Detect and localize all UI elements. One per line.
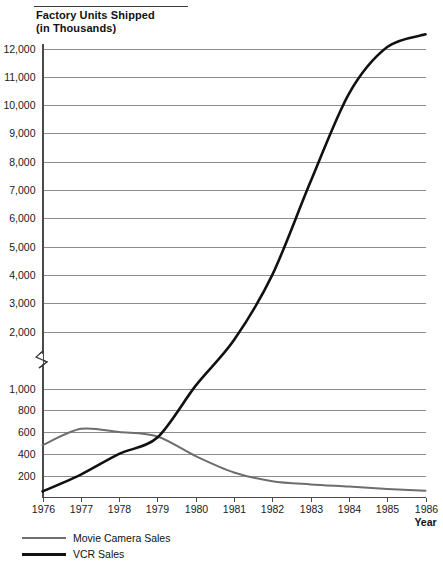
- y-axis-tick-label: 7,000: [9, 184, 35, 196]
- gridline-group: [43, 50, 426, 477]
- y-axis-tick-label: 200: [18, 470, 36, 482]
- y-axis-tick-label: 4,000: [9, 269, 35, 281]
- x-axis-tick-label: 1984: [338, 503, 362, 515]
- y-axis-tick-label: 3,000: [9, 297, 35, 309]
- legend-label-movie-camera-sales: Movie Camera Sales: [73, 530, 170, 546]
- series-line-vcr-sales: [43, 34, 426, 491]
- y-axis-tick-label: 11,000: [4, 71, 35, 83]
- y-axis-tick-label: 800: [18, 404, 36, 416]
- legend-swatch-vcr-sales: [22, 553, 66, 556]
- x-axis-tick-label: 1978: [108, 503, 132, 515]
- legend-label-vcr-sales: VCR Sales: [73, 546, 124, 562]
- legend-item-vcr-sales: VCR Sales: [22, 546, 322, 562]
- x-axis-tick-label: 1985: [376, 503, 400, 515]
- line-chart-plot: 12,00011,00010,0009,0008,0007,0006,0005,…: [0, 0, 443, 576]
- y-axis-tick-label: 12,000: [3, 43, 35, 55]
- x-axis-tick-label: 1982: [261, 503, 285, 515]
- legend-swatch-movie-camera-sales: [22, 537, 66, 539]
- y-axis-tick-label: 1,000: [9, 383, 35, 395]
- y-axis-tick-label: 5,000: [9, 241, 35, 253]
- y-axis-tick-label: 400: [18, 448, 36, 460]
- chart-container: Factory Units Shipped (in Thousands) 12,…: [0, 0, 443, 576]
- x-axis-tick-label: 1979: [146, 503, 170, 515]
- x-axis-tick-label: 1980: [185, 503, 209, 515]
- y-axis-tick-label: 10,000: [3, 99, 35, 111]
- legend-item-movie-camera-sales: Movie Camera Sales: [22, 530, 322, 546]
- x-axis-tick-labels: 1976197719781979198019811982198319841985…: [32, 498, 439, 516]
- y-axis-tick-label: 2,000: [9, 326, 35, 338]
- y-axis-tick-label: 8,000: [9, 156, 35, 168]
- x-axis-title: Year: [414, 516, 436, 528]
- x-axis-tick-label: 1981: [223, 503, 247, 515]
- x-axis-tick-label: 1977: [70, 503, 94, 515]
- y-axis-tick-labels: 12,00011,00010,0009,0008,0007,0006,0005,…: [3, 43, 35, 482]
- chart-legend: Movie Camera Sales VCR Sales: [22, 530, 322, 562]
- x-axis-label: Year: [414, 516, 436, 528]
- x-axis-tick-label: 1986: [415, 503, 439, 515]
- y-axis-tick-label: 600: [18, 426, 36, 438]
- y-axis-tick-label: 6,000: [9, 212, 35, 224]
- series-line-movie-camera-sales: [43, 428, 426, 490]
- x-axis-tick-label: 1976: [32, 503, 56, 515]
- axis-break-icon: [35, 351, 47, 368]
- x-axis-tick-label: 1983: [300, 503, 324, 515]
- series-group: [43, 34, 426, 491]
- y-axis-tick-label: 9,000: [9, 127, 35, 139]
